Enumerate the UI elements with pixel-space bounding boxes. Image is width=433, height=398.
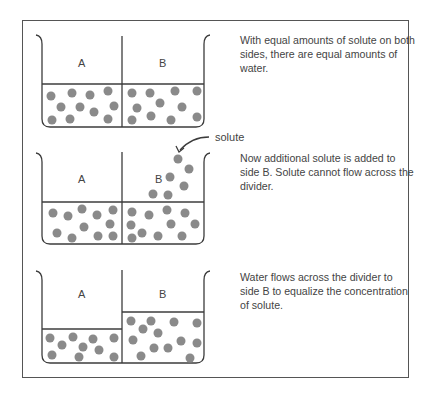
beaker-3-label-a: A [78, 288, 86, 300]
caption-equal: With equal amounts of solute on both sid… [240, 33, 415, 76]
solute-arrow [180, 137, 209, 150]
solute-particles [46, 87, 202, 363]
beaker-1-label-a: A [78, 57, 86, 69]
caption-equalized: Water flows across the divider to side B… [240, 270, 415, 313]
beaker-2 [36, 137, 210, 244]
beaker-2-label-b: B [155, 173, 162, 185]
beaker-2-label-a: A [78, 173, 86, 185]
beaker-1-label-b: B [159, 57, 166, 69]
beaker-3-label-b: B [159, 288, 166, 300]
solute-annotation: solute [215, 131, 244, 143]
beaker-1 [36, 35, 210, 127]
caption-added: Now additional solute is added to side B… [240, 151, 415, 194]
